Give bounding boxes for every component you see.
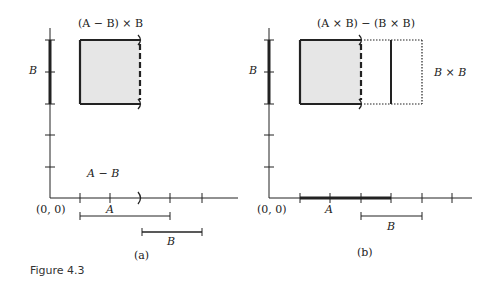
panel-a-origin-label: (0, 0): [36, 203, 66, 216]
panel-a-b-label: B: [167, 235, 175, 248]
panel-b-a-label: A: [325, 203, 333, 216]
panel-b-y-label: B: [249, 64, 257, 77]
panel-b-caption: (b): [357, 246, 373, 259]
panel-b-origin-label: (0, 0): [257, 203, 287, 216]
panel-a-region-label: A − B: [87, 167, 119, 180]
panel-a: [45, 28, 238, 236]
panel-a-y-label: B: [29, 64, 37, 77]
panel-a-a-label: A: [106, 203, 114, 216]
panel-b-side-label: B × B: [434, 66, 466, 79]
figure-canvas: [0, 0, 481, 291]
panel-b-title: (A × B) − (B × B): [317, 17, 415, 30]
region-b-times-b: [364, 40, 422, 104]
region-axb-minus-bxb: [300, 40, 361, 104]
panel-b: [264, 28, 472, 220]
panel-a-title: (A − B) × B: [78, 17, 143, 30]
panel-a-caption: (a): [134, 249, 149, 262]
region-a-minus-b-times-b: [80, 40, 140, 104]
figure-caption: Figure 4.3: [30, 264, 85, 277]
panel-b-b-label: B: [387, 220, 395, 233]
